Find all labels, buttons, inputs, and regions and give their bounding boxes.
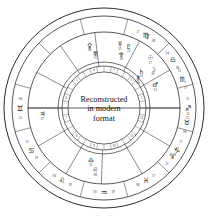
center-caption-line: in modern bbox=[87, 104, 120, 113]
zodiac-sign-sagittarius: ♐ bbox=[185, 104, 192, 113]
planet-degree: 08 bbox=[136, 81, 140, 85]
sign-degree-right: 08 bbox=[183, 130, 187, 134]
zodiac-sign-pisces: ♓ bbox=[143, 176, 150, 185]
zodiac-sign-gemini: ♊ bbox=[17, 104, 24, 113]
house-number: 2 bbox=[131, 78, 133, 82]
sign-degree-left: 17 bbox=[136, 30, 140, 34]
sign-degree-left: 11 bbox=[186, 97, 190, 101]
house-number: 1 bbox=[141, 96, 143, 100]
house-number: 4 bbox=[93, 68, 95, 72]
sign-degree-right: 25 bbox=[186, 116, 190, 120]
zodiac-sign-aquarius: ♒ bbox=[101, 188, 108, 197]
sign-degree-left: 19 bbox=[35, 156, 39, 160]
sign-degree-left: 19 bbox=[111, 190, 115, 194]
sign-degree-right: 11 bbox=[166, 162, 170, 166]
planet-degree: 09 bbox=[120, 57, 124, 61]
house-number: 8 bbox=[76, 134, 78, 138]
planet-degree: 08 bbox=[94, 173, 98, 177]
house-number: 7 bbox=[66, 116, 68, 120]
sign-degree-right: 17 bbox=[184, 86, 188, 90]
zodiac-sign-scorpio: ♏ bbox=[180, 75, 187, 84]
planet-degree: 17 bbox=[149, 61, 153, 65]
sign-degree-left: 14 bbox=[166, 51, 170, 55]
sign-degree-right: 12 bbox=[25, 140, 29, 144]
planet-degree: 27 bbox=[41, 117, 45, 121]
house-number: 6 bbox=[66, 96, 68, 100]
sign-degree-right: 20 bbox=[93, 190, 97, 194]
sign-degree-right: 06 bbox=[19, 97, 23, 101]
sign-degree-right: 10 bbox=[170, 156, 174, 160]
zodiac-sign-leo: ♌ bbox=[59, 176, 66, 185]
house-number: 9 bbox=[93, 144, 95, 148]
planet-degree: 20 bbox=[151, 72, 155, 76]
center-caption-line: Reconstructed bbox=[81, 95, 128, 104]
zodiac-sign-capricorn: ♑ bbox=[173, 146, 180, 155]
sign-degree-right: 06 bbox=[152, 39, 156, 43]
planet-degree: 11 bbox=[94, 56, 98, 60]
sign-degree-left: 25 bbox=[19, 116, 23, 120]
planet-degree: 15 bbox=[127, 49, 131, 53]
house-number: 5 bbox=[76, 78, 78, 82]
house-number: 11 bbox=[130, 134, 133, 138]
zodiac-sign-libra: ♎ bbox=[169, 55, 176, 64]
sign-degree-right: 06 bbox=[53, 174, 57, 178]
sign-degree-left: 11 bbox=[178, 69, 182, 73]
astrology-chart: 123456789101112♒1920♓1706♈1711♉1308♊2506… bbox=[0, 0, 208, 216]
center-caption-line: format bbox=[93, 114, 116, 123]
planet-degree: 08 bbox=[88, 48, 92, 52]
zodiac-sign-virgo: ♍ bbox=[143, 31, 150, 40]
planet-degree: 13 bbox=[154, 88, 158, 92]
sign-degree-left: 19 bbox=[68, 183, 72, 187]
house-number: 12 bbox=[140, 116, 144, 120]
house-number: 3 bbox=[113, 68, 115, 72]
zodiac-sign-cancer: ♋ bbox=[28, 146, 35, 155]
sign-degree-left: 17 bbox=[152, 174, 156, 178]
sign-degree-left: 17 bbox=[179, 140, 183, 144]
chart-label-layer: 123456789101112♒1920♓1706♈1711♉1308♊2506… bbox=[0, 0, 208, 216]
house-number: 10 bbox=[113, 144, 117, 148]
sign-degree-right: 06 bbox=[136, 183, 140, 187]
